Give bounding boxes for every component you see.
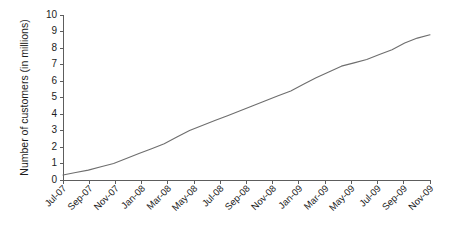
x-tick-label: Nov-08 <box>249 183 278 212</box>
data-series-group <box>63 35 430 175</box>
x-axis: Jul-07Sep-07Nov-07Jan-08Mar-08May-08Jul-… <box>42 180 435 213</box>
y-tick-label: 4 <box>51 108 57 119</box>
y-tick-label: 8 <box>51 42 57 53</box>
y-tick-label: 2 <box>51 141 57 152</box>
x-tick-label: May-08 <box>169 183 199 213</box>
y-tick-label: 1 <box>51 157 57 168</box>
y-tick-label: 10 <box>46 9 58 20</box>
y-tick-label: 7 <box>51 58 57 69</box>
x-tick-label: May-09 <box>327 183 357 213</box>
y-tick-label: 3 <box>51 124 57 135</box>
data-series-line <box>63 35 430 175</box>
chart-canvas: 012345678910 Jul-07Sep-07Nov-07Jan-08Mar… <box>0 0 450 240</box>
y-tick-label: 5 <box>51 91 57 102</box>
x-tick-label: Nov-07 <box>91 183 120 212</box>
x-tick-label: Sep-08 <box>222 183 251 212</box>
y-axis-title: Number of customers (in millions) <box>18 19 30 175</box>
line-chart: 012345678910 Jul-07Sep-07Nov-07Jan-08Mar… <box>0 0 450 240</box>
y-axis-title-text: Number of customers (in millions) <box>18 19 30 175</box>
x-tick-label: Sep-07 <box>65 183 94 212</box>
y-tick-label: 6 <box>51 75 57 86</box>
x-tick-label: Jan-08 <box>119 183 147 211</box>
y-axis: 012345678910 <box>46 9 63 185</box>
x-tick-label: Sep-09 <box>380 183 409 212</box>
x-tick-label: Mar-08 <box>144 183 173 212</box>
x-tick-label: Mar-09 <box>301 183 330 212</box>
y-tick-label: 9 <box>51 25 57 36</box>
x-tick-label: Jan-09 <box>276 183 304 211</box>
x-tick-label: Nov-09 <box>406 183 435 212</box>
y-tick-label: 0 <box>51 174 57 185</box>
